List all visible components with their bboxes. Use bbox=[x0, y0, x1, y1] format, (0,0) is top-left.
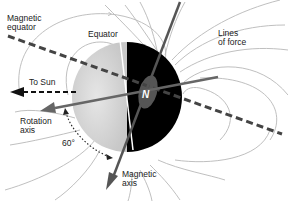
equator-label: Equator bbox=[88, 30, 118, 39]
angle-label: 60° bbox=[62, 139, 75, 148]
to-sun-label: To Sun bbox=[29, 78, 55, 87]
lines-of-force-label: Lines of force bbox=[218, 29, 246, 47]
magnetic-axis-arrowhead bbox=[106, 172, 118, 190]
angle-arc-head-top bbox=[63, 108, 69, 115]
north-pole-label: N bbox=[142, 90, 149, 99]
to-sun-arrowhead bbox=[10, 87, 24, 97]
angle-arc-head-bottom bbox=[106, 154, 113, 160]
rotation-axis-label: Rotation axis bbox=[20, 117, 52, 135]
magnetic-axis-label: Magnetic axis bbox=[122, 170, 157, 188]
magnetic-equator-label: Magnetic equator bbox=[7, 14, 42, 32]
